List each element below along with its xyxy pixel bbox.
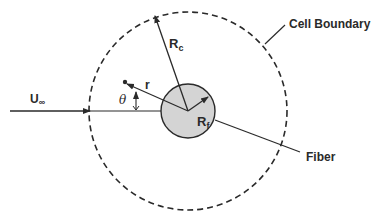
fiber-leader-line	[215, 120, 300, 152]
free-stream-velocity-label: U∞	[30, 92, 46, 107]
radial-coordinate-label: r	[145, 78, 150, 92]
fiber-label: Fiber	[306, 150, 336, 164]
cell-model-diagram: Cell Boundary Fiber U∞ Rc Rf r θ	[0, 0, 377, 219]
cell-radius-label: Rc	[169, 36, 183, 53]
angle-theta-label: θ	[119, 93, 127, 107]
cell-boundary-leader-line	[265, 25, 285, 44]
field-point-dot	[123, 80, 127, 84]
cell-boundary-label: Cell Boundary	[289, 17, 371, 31]
